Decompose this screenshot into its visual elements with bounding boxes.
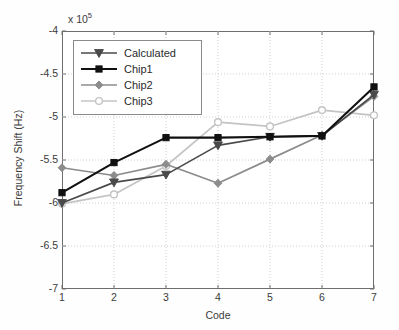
x-tick-label: 2 bbox=[99, 292, 129, 303]
x-tick-label: 4 bbox=[203, 292, 233, 303]
y-axis-title: Frequency Shift (Hz) bbox=[12, 78, 24, 238]
x-tick-label: 6 bbox=[307, 292, 337, 303]
legend-item-chip1[interactable]: Chip1 bbox=[79, 61, 196, 77]
y-tick-label: -4.5 bbox=[22, 68, 58, 79]
legend-item-calculated[interactable]: Calculated bbox=[79, 45, 196, 61]
exponent-power: 5 bbox=[88, 11, 92, 20]
x-axis-title: Code bbox=[62, 309, 374, 321]
x-tick-label: 5 bbox=[255, 292, 285, 303]
x-tick-label: 7 bbox=[359, 292, 389, 303]
legend-item-chip3[interactable]: Chip3 bbox=[79, 93, 196, 109]
figure-canvas: x 105 -4-4.5-5-5.5-6-6.5-7 1234567 Code … bbox=[0, 0, 399, 330]
y-axis-exponent-label: x 105 bbox=[68, 11, 92, 25]
y-axis-tick-labels: -4-4.5-5-5.5-6-6.5-7 bbox=[18, 0, 58, 330]
x-tick-label: 3 bbox=[151, 292, 181, 303]
legend-triangle-down-icon bbox=[79, 46, 119, 60]
legend-item-label: Chip2 bbox=[119, 80, 153, 91]
legend-item-label: Chip1 bbox=[119, 64, 153, 75]
y-tick-label: -6 bbox=[22, 197, 58, 208]
x-tick-label: 1 bbox=[47, 292, 77, 303]
y-tick-label: -5 bbox=[22, 111, 58, 122]
legend-square-icon bbox=[79, 62, 119, 76]
chart-legend: CalculatedChip1Chip2Chip3 bbox=[73, 40, 202, 115]
legend-circle-icon bbox=[79, 94, 119, 108]
legend-diamond-icon bbox=[79, 78, 119, 92]
y-tick-label: -4 bbox=[22, 25, 58, 36]
legend-item-label: Calculated bbox=[119, 48, 176, 59]
y-tick-label: -5.5 bbox=[22, 154, 58, 165]
legend-item-label: Chip3 bbox=[119, 96, 153, 107]
legend-item-chip2[interactable]: Chip2 bbox=[79, 77, 196, 93]
y-tick-label: -6.5 bbox=[22, 240, 58, 251]
exponent-mantissa: x 10 bbox=[68, 13, 88, 25]
